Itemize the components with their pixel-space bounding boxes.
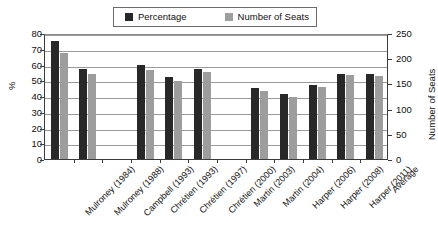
bar — [203, 72, 211, 159]
y-axis-right-tick-mark — [388, 110, 392, 111]
x-axis-category-label: Harper (2008) — [339, 164, 386, 211]
legend-label-percentage: Percentage — [138, 12, 187, 22]
bar-group — [188, 35, 217, 159]
bar-group — [45, 35, 74, 159]
y-axis-right-tick-label: 200 — [396, 54, 412, 64]
y-axis-left-tick-mark — [40, 129, 44, 130]
bar — [137, 65, 145, 160]
bar-group — [332, 35, 361, 159]
bar — [280, 94, 288, 159]
bar — [194, 69, 202, 159]
legend-label-number-of-seats: Number of Seats — [238, 12, 309, 22]
bar — [251, 88, 259, 159]
x-axis-tick — [274, 159, 275, 163]
y-axis-right-tick-label: 50 — [396, 130, 407, 140]
bar — [60, 53, 68, 159]
y-axis-right-tick-mark — [388, 84, 392, 85]
y-axis-left-tick-mark — [40, 160, 44, 161]
y-axis-right-tick-mark — [388, 160, 392, 161]
bar — [366, 74, 374, 159]
y-axis-right-tick-label: 100 — [396, 105, 412, 115]
x-axis-category-label: Chrétien (1997) — [197, 164, 248, 215]
y-axis-left-title: % — [6, 82, 17, 90]
y-axis-right-tick-label: 150 — [396, 79, 412, 89]
chart-legend: Percentage Number of Seats — [113, 7, 317, 27]
bar-group — [160, 35, 189, 159]
legend-swatch-seats-icon — [225, 13, 233, 21]
bar — [174, 81, 182, 159]
x-axis-tick — [131, 159, 132, 163]
y-axis-left-tick-mark — [40, 144, 44, 145]
legend-item-percentage: Percentage — [125, 8, 187, 26]
x-axis-category-label: Average — [389, 164, 420, 195]
bar — [165, 77, 173, 159]
y-axis-left-tick-mark — [40, 113, 44, 114]
x-axis-category-label: Martin (2004) — [281, 164, 326, 209]
y-axis-right-tick-mark — [388, 34, 392, 35]
y-axis-right-tick-label: 250 — [396, 29, 412, 39]
bar-series-container — [45, 35, 387, 159]
bar-group — [360, 35, 389, 159]
x-axis-category-label: Chrétien (2000) — [226, 164, 277, 215]
bar — [318, 87, 326, 159]
x-axis-tick — [188, 159, 189, 163]
y-axis-right-tick-mark — [388, 135, 392, 136]
x-axis-category-label: Chrétien (1993) — [169, 164, 220, 215]
x-axis-tick — [332, 159, 333, 163]
y-axis-right-tick-mark — [388, 59, 392, 60]
y-axis-left-tick-mark — [40, 97, 44, 98]
bar-group — [274, 35, 303, 159]
bar — [51, 41, 59, 159]
x-axis-tick — [160, 159, 161, 163]
bar-group — [303, 35, 332, 159]
bar-group — [131, 35, 160, 159]
bar-group — [102, 35, 131, 159]
x-axis-category-label: Mulroney (1984) — [84, 164, 137, 217]
legend-item-number-of-seats: Number of Seats — [225, 8, 309, 26]
legend-swatch-percentage-icon — [125, 13, 133, 21]
y-axis-left-tick-mark — [40, 50, 44, 51]
bar — [146, 70, 154, 159]
y-axis-left-tick-mark — [40, 66, 44, 67]
bar — [79, 69, 87, 159]
bar — [260, 91, 268, 159]
bar — [337, 74, 345, 159]
bar — [289, 97, 297, 159]
x-axis-category-label: Campbell (1993) — [141, 164, 195, 218]
x-axis-category-label: Harper (2011) — [367, 164, 413, 210]
y-axis-left-tick-mark — [40, 81, 44, 82]
x-axis-tick — [360, 159, 361, 163]
bar-group — [217, 35, 246, 159]
x-axis-tick — [217, 159, 218, 163]
bar-chart: Percentage Number of Seats 0102030405060… — [0, 0, 438, 250]
y-axis-right-title: Number of Seats — [426, 69, 437, 140]
bar — [346, 75, 354, 159]
y-axis-right-tick-label: 0 — [396, 155, 401, 165]
x-axis-category-label: Mulroney (1988) — [112, 164, 165, 217]
bar-group — [74, 35, 103, 159]
bar — [309, 85, 317, 159]
x-axis-tick — [102, 159, 103, 163]
bar — [375, 76, 383, 159]
plot-area — [44, 34, 388, 160]
x-axis-category-label: Harper (2006) — [310, 164, 357, 211]
bar-group — [246, 35, 275, 159]
x-axis-tick — [303, 159, 304, 163]
x-axis-tick — [74, 159, 75, 163]
y-axis-left-tick-mark — [40, 34, 44, 35]
x-axis-category-label: Martin (2003) — [252, 164, 297, 209]
x-axis-tick — [246, 159, 247, 163]
bar — [88, 74, 96, 159]
